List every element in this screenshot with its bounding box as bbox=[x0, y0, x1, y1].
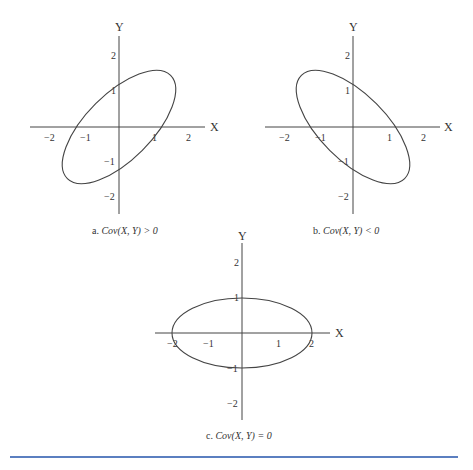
caption-b: b. Cov(X, Y) < 0 bbox=[313, 225, 379, 236]
plot-b-xtick: 1 bbox=[387, 132, 392, 143]
plot-b-x-label: X bbox=[444, 120, 453, 134]
plot-c-ytick: 2 bbox=[234, 257, 239, 268]
plot-b-ytick: 1 bbox=[345, 85, 350, 96]
plot-a-x-label: X bbox=[210, 120, 219, 134]
caption-c-expr: Cov(X, Y) = 0 bbox=[215, 430, 271, 441]
plot-b-xtick: −2 bbox=[279, 132, 290, 143]
plot-b-ytick: −2 bbox=[338, 191, 349, 202]
caption-c-prefix: c. bbox=[206, 430, 213, 441]
caption-b-expr: Cov(X, Y) < 0 bbox=[323, 225, 379, 236]
figure-canvas: X Y −2 −1 1 2 2 1 −1 −2 X Y −2 −1 1 2 2 … bbox=[0, 0, 473, 470]
caption-a: a. Cov(X, Y) > 0 bbox=[92, 225, 158, 236]
section-divider bbox=[10, 456, 458, 458]
caption-b-prefix: b. bbox=[313, 225, 321, 236]
caption-c: c. Cov(X, Y) = 0 bbox=[206, 430, 272, 441]
plot-a-xtick: −1 bbox=[80, 132, 91, 143]
plot-b-xtick: 2 bbox=[421, 132, 426, 143]
caption-a-expr: Cov(X, Y) > 0 bbox=[101, 225, 157, 236]
plot-a-xtick: 2 bbox=[186, 132, 191, 143]
plot-b-xtick: −1 bbox=[315, 132, 326, 143]
plot-c-xtick: −1 bbox=[203, 338, 214, 349]
plot-b-ytick: 2 bbox=[345, 50, 350, 61]
plot-a-ytick: 2 bbox=[111, 50, 116, 61]
plot-b: X Y −2 −1 1 2 2 1 −1 −2 bbox=[265, 20, 453, 214]
caption-a-prefix: a. bbox=[92, 225, 99, 236]
plot-c-xtick: −2 bbox=[167, 338, 178, 349]
plot-c-xtick: 1 bbox=[276, 338, 281, 349]
plot-a-ytick: −1 bbox=[104, 156, 115, 167]
plot-a: X Y −2 −1 1 2 2 1 −1 −2 bbox=[30, 20, 219, 214]
plot-c-ytick: −2 bbox=[227, 398, 238, 409]
plot-a-y-label: Y bbox=[115, 20, 124, 34]
plot-c-xtick: 2 bbox=[309, 338, 314, 349]
plot-c: X Y −2 −1 1 2 2 1 −1 −2 bbox=[155, 229, 344, 420]
plot-a-ytick: −2 bbox=[104, 191, 115, 202]
plot-c-ytick: −1 bbox=[227, 363, 238, 374]
plot-b-y-label: Y bbox=[349, 20, 358, 34]
plot-c-y-label: Y bbox=[238, 229, 247, 243]
plot-c-x-label: X bbox=[335, 326, 344, 340]
plot-a-xtick: −2 bbox=[44, 132, 55, 143]
